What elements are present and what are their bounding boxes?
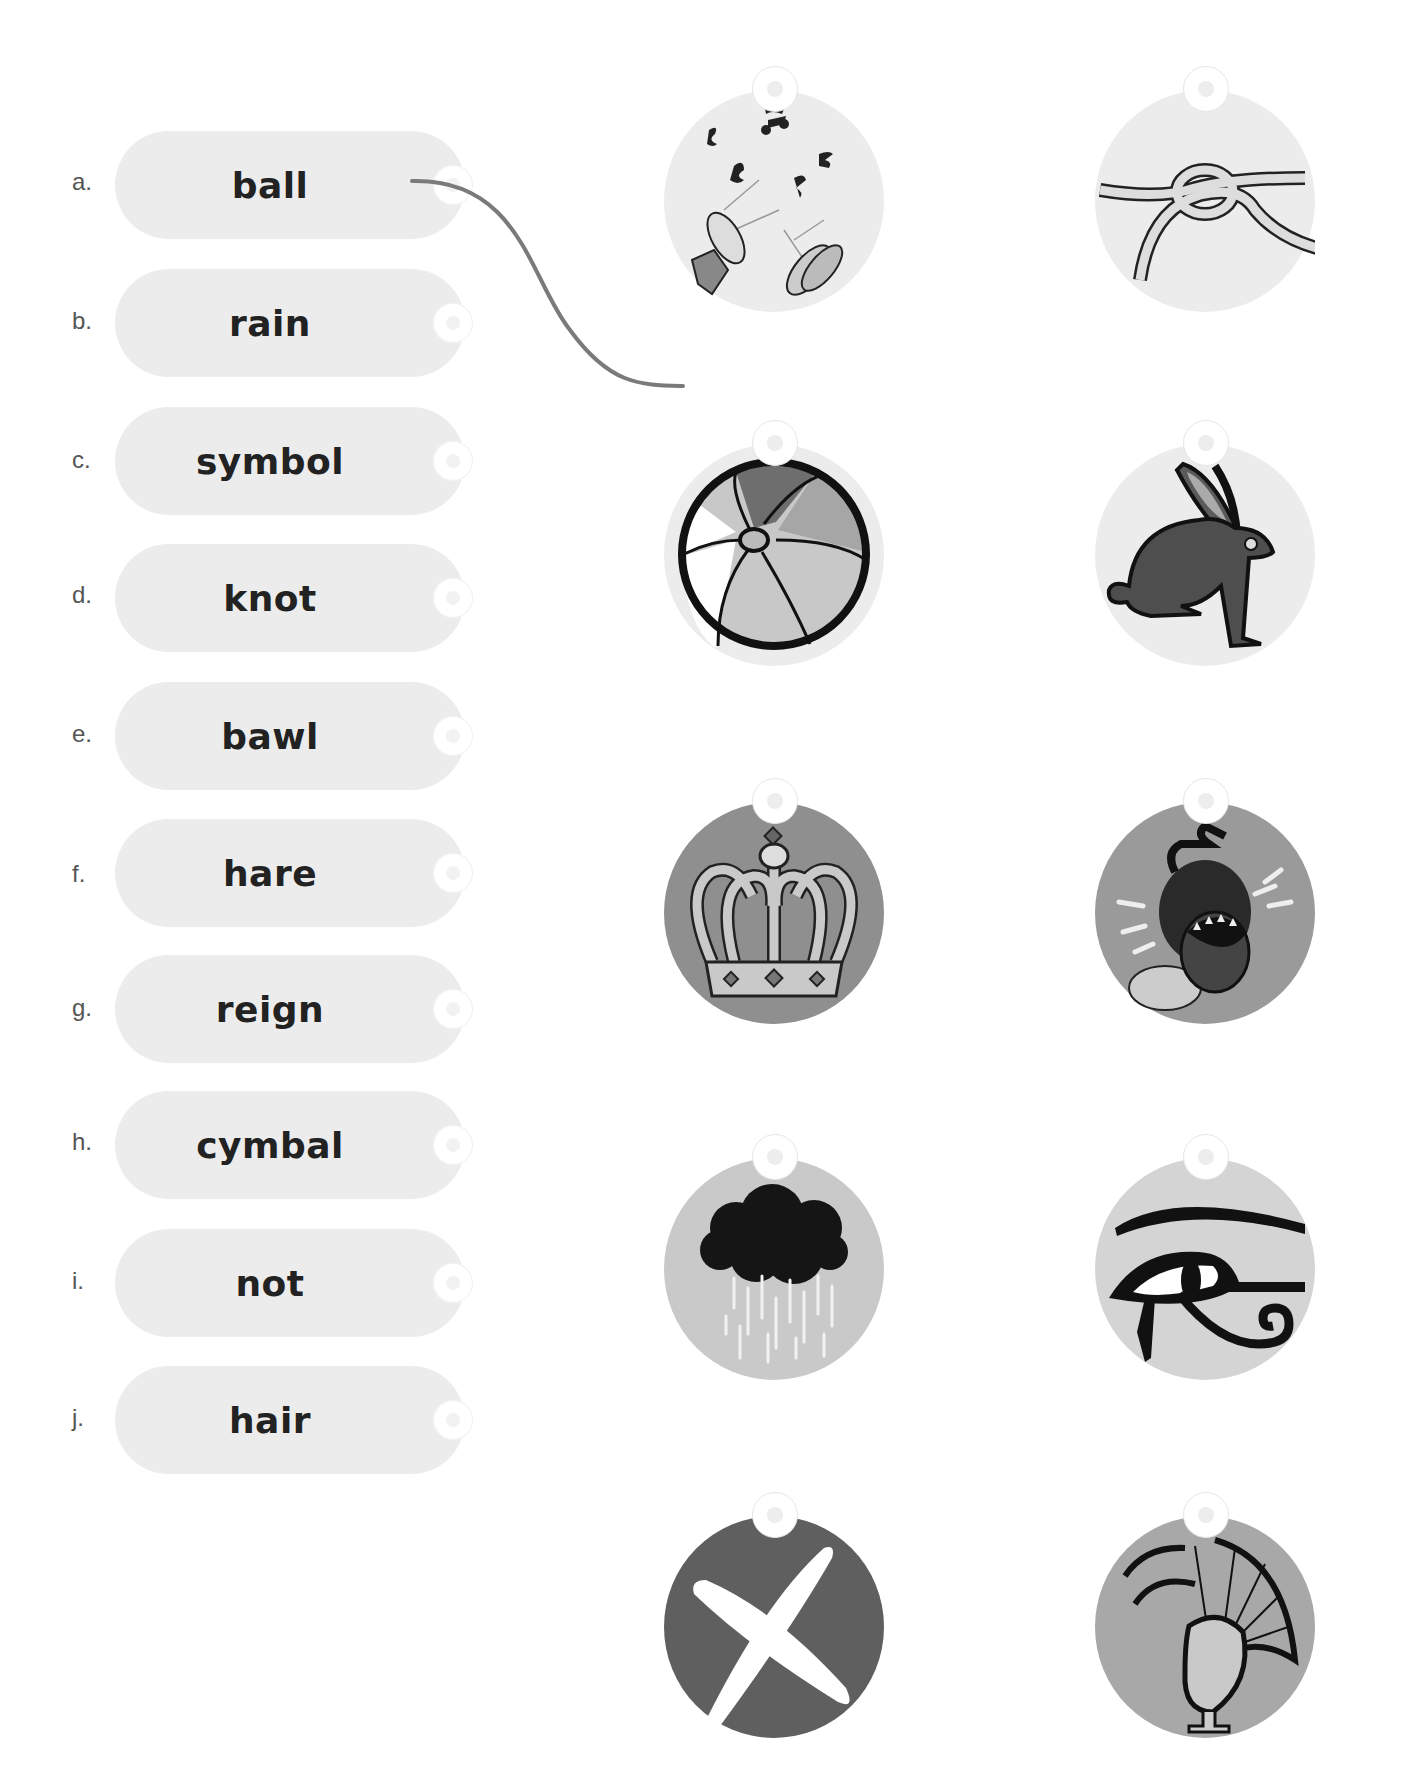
tag-hole-connector[interactable] <box>433 441 473 481</box>
item-letter: g. <box>72 994 102 1022</box>
word-tag-not[interactable]: not <box>115 1229 465 1337</box>
tag-hole-connector[interactable] <box>433 1125 473 1165</box>
picture-tag-instruments[interactable] <box>664 66 884 306</box>
crying-fly-icon <box>1095 802 1315 1024</box>
tag-hole-connector[interactable] <box>433 853 473 893</box>
tag-hole-connector[interactable] <box>752 66 798 112</box>
word-tag-symbol[interactable]: symbol <box>115 407 465 515</box>
tag-hole-connector[interactable] <box>752 420 798 466</box>
item-letter: i. <box>72 1267 102 1295</box>
item-letter: d. <box>72 581 102 609</box>
word-label: hare <box>115 819 425 927</box>
tag-hole-connector[interactable] <box>433 1400 473 1440</box>
picture-tag-hair[interactable] <box>1095 1492 1315 1732</box>
trumpet-cymbals-icon <box>664 90 884 312</box>
item-letter: b. <box>72 307 102 335</box>
word-label: knot <box>115 544 425 652</box>
word-label: not <box>115 1229 425 1337</box>
word-label: symbol <box>115 407 425 515</box>
picture-tag-eye-symbol[interactable] <box>1095 1134 1315 1374</box>
word-label: rain <box>115 269 425 377</box>
tag-hole-connector[interactable] <box>752 1134 798 1180</box>
word-label: hair <box>115 1366 425 1474</box>
word-label: reign <box>115 955 425 1063</box>
word-tag-knot[interactable]: knot <box>115 544 465 652</box>
word-tag-bawl[interactable]: bawl <box>115 682 465 790</box>
hare-icon <box>1095 444 1315 666</box>
tag-hole-connector[interactable] <box>752 778 798 824</box>
word-label: ball <box>115 131 425 239</box>
tag-hole-connector[interactable] <box>1183 1134 1229 1180</box>
item-letter: f. <box>72 860 102 888</box>
word-tag-cymbal[interactable]: cymbal <box>115 1091 465 1199</box>
word-label: bawl <box>115 682 425 790</box>
item-letter: h. <box>72 1128 102 1156</box>
word-tag-hair[interactable]: hair <box>115 1366 465 1474</box>
word-tag-ball[interactable]: ball <box>115 131 465 239</box>
rope-knot-icon <box>1095 90 1315 312</box>
tag-hole-connector[interactable] <box>433 716 473 756</box>
word-label: cymbal <box>115 1091 425 1199</box>
item-letter: a. <box>72 168 102 196</box>
eye-of-horus-icon <box>1095 1158 1315 1380</box>
tag-hole-connector[interactable] <box>1183 1492 1229 1538</box>
picture-tag-crying-fly[interactable] <box>1095 778 1315 1018</box>
word-tag-rain[interactable]: rain <box>115 269 465 377</box>
tag-hole-connector[interactable] <box>433 1263 473 1303</box>
tag-hole-connector[interactable] <box>433 303 473 343</box>
item-letter: j. <box>72 1404 102 1432</box>
picture-tag-beach-ball[interactable] <box>664 420 884 660</box>
x-mark-icon <box>664 1516 884 1738</box>
picture-tag-cross[interactable] <box>664 1492 884 1732</box>
tag-hole-connector[interactable] <box>1183 420 1229 466</box>
picture-tag-rain[interactable] <box>664 1134 884 1374</box>
rain-cloud-icon <box>664 1158 884 1380</box>
tag-hole-connector[interactable] <box>1183 778 1229 824</box>
picture-tag-crown[interactable] <box>664 778 884 1018</box>
word-tag-hare[interactable]: hare <box>115 819 465 927</box>
item-letter: e. <box>72 720 102 748</box>
picture-tag-knot[interactable] <box>1095 66 1315 306</box>
item-letter: c. <box>72 446 102 474</box>
tag-hole-connector[interactable] <box>433 578 473 618</box>
tag-hole-connector[interactable] <box>1183 66 1229 112</box>
tag-hole-connector[interactable] <box>433 989 473 1029</box>
tag-hole-connector[interactable] <box>433 165 473 205</box>
word-tag-reign[interactable]: reign <box>115 955 465 1063</box>
tag-hole-connector[interactable] <box>752 1492 798 1538</box>
crown-icon <box>664 802 884 1024</box>
mohawk-hair-icon <box>1095 1516 1315 1738</box>
beach-ball-icon <box>664 444 884 666</box>
picture-tag-hare[interactable] <box>1095 420 1315 660</box>
